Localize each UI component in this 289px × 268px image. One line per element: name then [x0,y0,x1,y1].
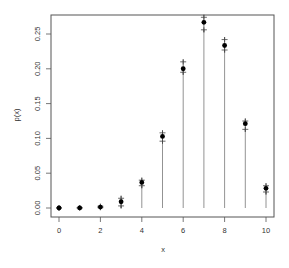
y-axis: 0.000.050.100.150.200.25 [33,27,51,216]
data-point [222,43,227,48]
x-tick-label: 4 [140,226,144,235]
y-axis-label: p(x) [12,108,21,121]
y-tick-label: 0.20 [33,61,42,76]
data-point [243,121,248,126]
x-axis: 0246810 [57,217,270,235]
x-tick-label: 0 [57,226,61,235]
x-tick-label: 8 [223,226,227,235]
data-point [160,134,165,139]
data-point [98,205,103,210]
data-point [264,186,269,191]
y-tick-label: 0.15 [33,96,42,111]
x-axis-label: x [161,245,165,254]
y-tick-label: 0.00 [33,201,42,216]
x-tick-label: 2 [98,226,102,235]
data-point [57,206,62,211]
data-point [119,199,124,204]
data-point [139,180,144,185]
x-tick-label: 10 [262,226,270,235]
data-point [181,66,186,71]
data-point [77,206,82,211]
x-tick-label: 6 [181,226,185,235]
data-point [202,20,207,25]
y-tick-label: 0.05 [33,166,42,181]
y-tick-label: 0.10 [33,131,42,146]
y-tick-label: 0.25 [33,27,42,42]
stems [59,30,266,208]
chart: 0246810 0.000.050.100.150.200.25 x p(x) [0,0,289,268]
